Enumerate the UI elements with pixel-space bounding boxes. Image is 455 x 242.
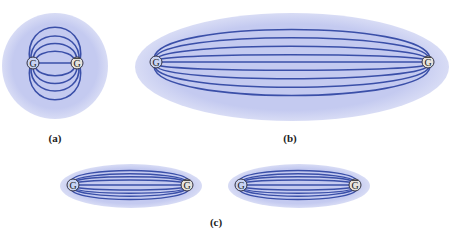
- svg-text:G: G: [351, 180, 358, 191]
- panel-label-b: (b): [283, 132, 296, 144]
- gluon-left-a: G: [27, 57, 39, 69]
- svg-text:G: G: [237, 180, 244, 191]
- gluon-left-c1: G: [67, 179, 79, 191]
- svg-text:G: G: [424, 57, 431, 68]
- panel-b-diagram: G G: [135, 13, 449, 121]
- svg-text:G: G: [69, 180, 76, 191]
- figure-caption: [0, 234, 455, 242]
- svg-text:G: G: [29, 58, 36, 69]
- svg-text:G: G: [152, 57, 159, 68]
- antigluon-right-a: G: [71, 57, 83, 69]
- panel-label-c: (c): [210, 216, 222, 228]
- antigluon-right-c2: G: [349, 179, 361, 191]
- panel-c-left-diagram: G G: [60, 164, 202, 208]
- panel-label-a: (a): [49, 132, 62, 144]
- field-region-a: [2, 13, 108, 119]
- svg-text:G: G: [73, 58, 80, 69]
- flux-tube-diagram: G G G G: [0, 0, 455, 242]
- antigluon-right-c1: G: [181, 179, 193, 191]
- panel-a-diagram: G G: [2, 13, 108, 119]
- gluon-left-c2: G: [235, 179, 247, 191]
- gluon-left-b: G: [150, 56, 162, 68]
- svg-text:G: G: [183, 180, 190, 191]
- panel-c-right-diagram: G G: [228, 164, 370, 208]
- antigluon-right-b: G: [422, 56, 434, 68]
